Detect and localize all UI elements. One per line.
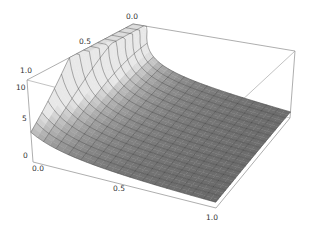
x-tick-1: 0.5: [113, 184, 125, 193]
z-tick-2: 10: [16, 83, 26, 92]
y-tick-1: 0.5: [79, 37, 91, 46]
surface-plot: 0.0 0.5 1.0 0 5 10 0.0 0.5 1.0: [0, 0, 312, 228]
y-tick-2: 1.0: [20, 66, 32, 75]
z-tick-0: 0: [23, 151, 28, 160]
z-tick-1: 5: [22, 114, 27, 123]
surface-mesh: [31, 24, 291, 202]
x-tick-0: 0.0: [32, 164, 44, 173]
y-tick-0: 0.0: [126, 12, 138, 21]
x-tick-2: 1.0: [206, 213, 218, 222]
